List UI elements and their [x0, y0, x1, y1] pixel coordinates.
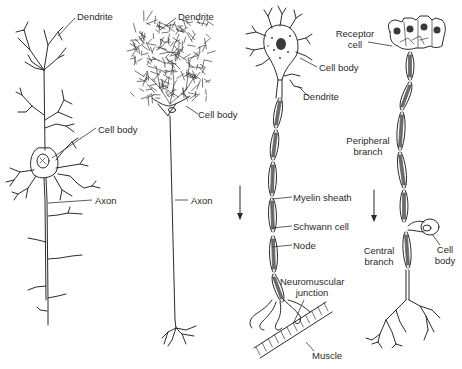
muscle-striation	[268, 339, 272, 347]
sensory-cell-body	[421, 219, 439, 235]
label-receptor: Receptor	[330, 28, 380, 39]
label-dendrite-2: Dendrite	[178, 11, 214, 22]
sensory-neuron	[366, 16, 445, 348]
motor-myelin-sheath	[268, 98, 284, 302]
muscle-striation	[299, 319, 303, 327]
label-cell: Cell	[430, 244, 460, 255]
label-cell-body-3: Cell body	[319, 62, 359, 73]
muscle-striation	[281, 331, 285, 339]
label-central-branch: branch	[354, 256, 404, 267]
motor-neuron	[237, 6, 332, 358]
muscle-striation	[306, 315, 310, 323]
muscle-striation	[293, 323, 297, 331]
label-schwann-cell: Schwann cell	[293, 221, 349, 232]
label-receptor-cell: cell	[330, 39, 380, 50]
label-node: Node	[293, 240, 316, 251]
label-axon-1: Axon	[95, 195, 117, 206]
leader-node	[272, 245, 292, 247]
label-peripheral: Peripheral	[340, 135, 396, 146]
label-myelin-sheath: Myelin sheath	[293, 192, 352, 203]
leader-axon-1	[48, 200, 92, 203]
label-cell-body-4: body	[430, 255, 460, 266]
purkinje-dendritic-tree	[127, 11, 215, 106]
apical-dendrite	[44, 70, 45, 150]
label-peripheral-branch: branch	[340, 146, 396, 157]
sensory-myelin-sheath	[397, 52, 414, 268]
multipolar-neuron	[6, 18, 100, 325]
leader-cell-body-2	[186, 106, 198, 114]
label-dendrite-3: Dendrite	[303, 91, 339, 102]
muscle-striation	[262, 343, 266, 351]
label-central: Central	[354, 245, 404, 256]
muscle-striation	[318, 307, 322, 315]
muscle-striation	[256, 347, 260, 355]
muscle-striation	[312, 311, 316, 319]
muscle-striation	[287, 327, 291, 335]
label-cell-body-2: Cell body	[198, 109, 238, 120]
arrow-head-2	[371, 215, 377, 222]
leader-schwann-cell	[272, 226, 292, 228]
label-axon-2: Axon	[191, 195, 213, 206]
leader-myelin-sheath	[272, 197, 292, 199]
muscle-striation	[275, 335, 279, 343]
motor-cell-body	[264, 25, 298, 80]
purkinje-neuron	[127, 11, 215, 346]
label-dendrite-1: Dendrite	[77, 11, 113, 22]
label-junction: junction	[280, 287, 344, 298]
purkinje-terminals	[162, 326, 196, 346]
motor-dendrite	[284, 74, 302, 88]
muscle-striation	[324, 303, 328, 311]
sensory-nucleus	[423, 225, 431, 231]
neuron-types-diagram: Dendrite Cell body Axon Dendrite Cell bo…	[0, 0, 462, 369]
leader-cell-body-3	[300, 58, 317, 67]
purkinje-axon	[170, 116, 176, 328]
leader-cell-body-1	[52, 128, 96, 158]
purkinje-branches	[127, 11, 215, 106]
label-neuromuscular: Neuromuscular	[280, 276, 344, 287]
arrow-head-1	[237, 213, 243, 220]
sensory-terminals	[366, 300, 440, 344]
motor-terminals	[250, 300, 310, 330]
label-cell-body-1: Cell body	[98, 124, 138, 135]
motor-nucleus	[276, 38, 286, 50]
leader-dendrite-1	[58, 18, 75, 36]
axon	[46, 178, 48, 325]
cell-body	[31, 148, 58, 178]
diagram-canvas	[0, 0, 462, 369]
label-muscle: Muscle	[312, 350, 342, 361]
